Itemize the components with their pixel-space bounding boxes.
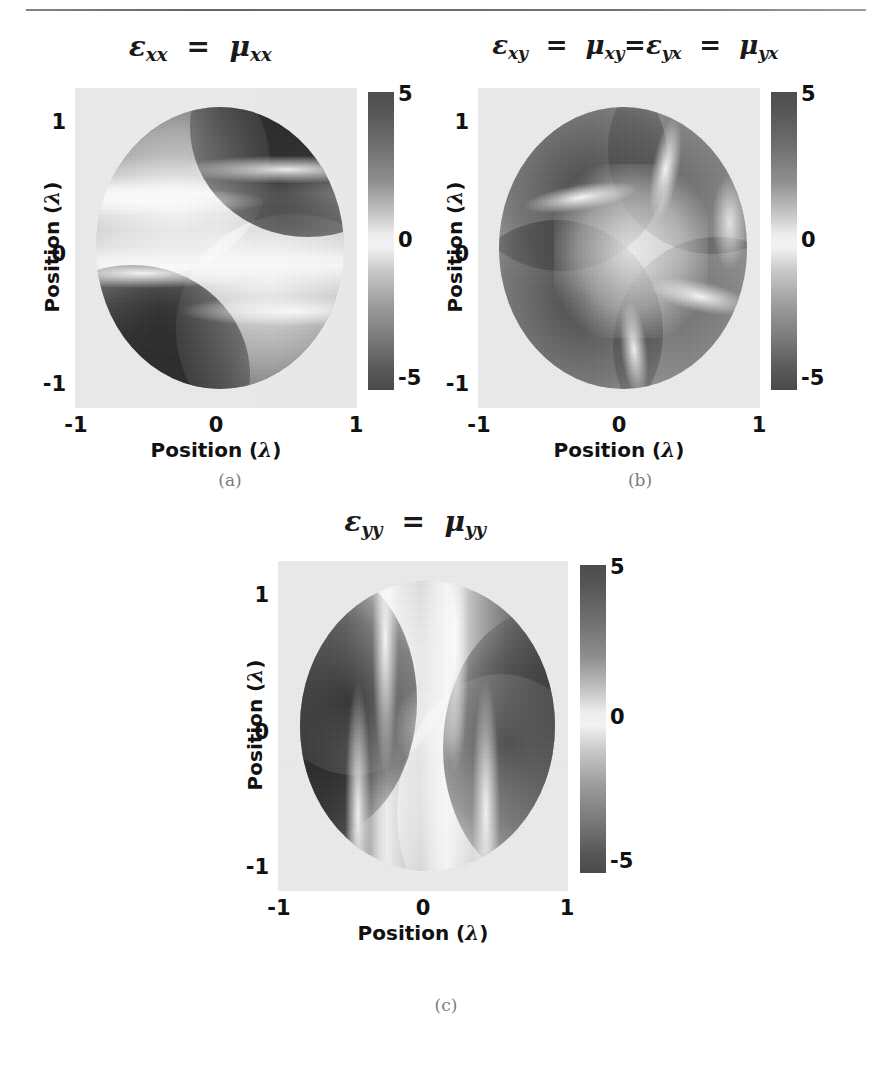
- panel-a-title-mu: μxx: [230, 30, 272, 63]
- panel-c-ctick-mid: 0: [610, 705, 625, 729]
- panel-a-title: εxx = μxx: [0, 30, 410, 65]
- panel-c-colorbar: [580, 565, 606, 873]
- panel-c-caption: (c): [406, 995, 486, 1015]
- panel-c-xtick-right: 1: [549, 896, 585, 920]
- panel-c-ytick-bot: -1: [231, 855, 269, 879]
- panel-a-xlabel: Position (λ): [75, 438, 357, 462]
- panel-a-ytick-bot: -1: [28, 372, 66, 396]
- panel-b-title-equals-1: =: [537, 30, 577, 60]
- panel-b-ctick-mid: 0: [801, 228, 816, 252]
- panel-a-ctick-mid: 0: [398, 228, 413, 252]
- panel-c-xtick-left: -1: [261, 896, 297, 920]
- panel-b-title-mu-xy: μxy: [586, 30, 625, 60]
- panel-b-title: εxy = μxy=εyx = μyx: [425, 30, 845, 63]
- panel-a-plot: [75, 88, 357, 408]
- panel-b-ytick-top: 1: [443, 110, 469, 134]
- panel-b-ytick-bot: -1: [431, 372, 469, 396]
- header-divider: [26, 9, 866, 11]
- panel-a-xtick-right: 1: [338, 413, 374, 437]
- panel-a-ctick-top: 5: [398, 82, 413, 106]
- panel-b-plot: [478, 88, 760, 408]
- panel-b-title-equals-3: =: [690, 30, 730, 60]
- panel-b-title-epsilon-yx: εyx: [646, 30, 681, 60]
- panel-c-ctick-top: 5: [610, 555, 625, 579]
- panel-a-xtick-mid: 0: [198, 413, 234, 437]
- panel-c-ylabel: Position (λ): [243, 630, 267, 820]
- panel-b-field-disc: [499, 107, 747, 389]
- panel-a-ytick-top: 1: [40, 110, 66, 134]
- panel-c-ytick-top: 1: [243, 583, 269, 607]
- panel-c-field-disc: [300, 581, 555, 871]
- panel-c-title: εyy = μyy: [205, 505, 625, 540]
- panel-a-field-disc: [96, 107, 344, 389]
- panel-b-xtick-mid: 0: [601, 413, 637, 437]
- panel-c-ctick-bot: -5: [610, 849, 633, 873]
- panel-b-title-equals-2: =: [624, 30, 646, 60]
- panel-a-colorbar: [368, 92, 394, 390]
- panel-c-title-mu: μyy: [445, 505, 486, 538]
- panel-a-title-epsilon: εxx: [129, 30, 167, 63]
- panel-b-caption: (b): [600, 470, 680, 490]
- panel-b-ylabel: Position (λ): [443, 152, 467, 342]
- panel-a-xtick-left: -1: [58, 413, 94, 437]
- panel-b-xlabel: Position (λ): [478, 438, 760, 462]
- panel-c-title-epsilon: εyy: [344, 505, 382, 538]
- panel-b-title-epsilon-xy: εxy: [492, 30, 527, 60]
- panel-a-caption: (a): [190, 470, 270, 490]
- panel-c-xtick-mid: 0: [405, 896, 441, 920]
- panel-a-ylabel: Position (λ): [40, 152, 64, 342]
- panel-c: εyy = μyy 1 0 -1 Position (λ) -1 0 1: [215, 505, 645, 975]
- panel-b: εxy = μxy=εyx = μyx 1 0 -1 Position (λ): [415, 30, 845, 490]
- panel-b-title-mu-yx: μyx: [739, 30, 778, 60]
- panel-c-plot: [278, 561, 568, 891]
- panel-b-colorbar: [771, 92, 797, 390]
- panel-b-xtick-right: 1: [741, 413, 777, 437]
- panel-b-ctick-bot: -5: [801, 366, 824, 390]
- panel-a: εxx = μxx 1 0 -1 Position (λ): [20, 30, 440, 490]
- panel-b-xtick-left: -1: [461, 413, 497, 437]
- panel-a-title-equals: =: [177, 30, 220, 63]
- panel-c-title-equals: =: [392, 505, 435, 538]
- panel-b-ctick-top: 5: [801, 82, 816, 106]
- panel-c-xlabel: Position (λ): [278, 921, 568, 945]
